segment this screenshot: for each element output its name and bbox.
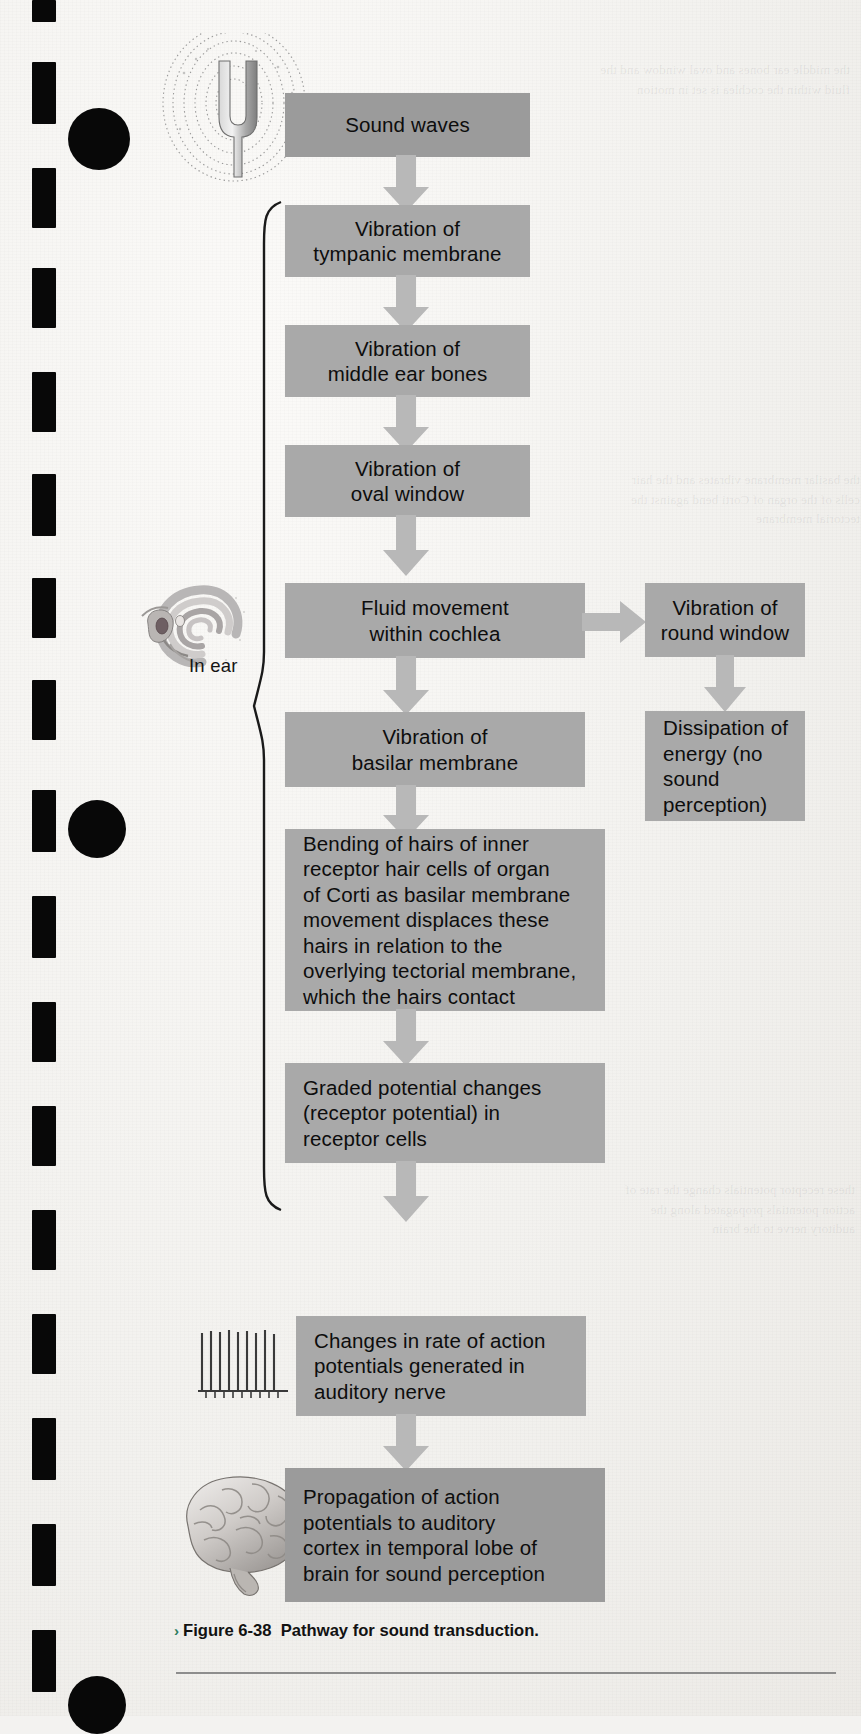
flow-node-action-potentials[interactable]: Changes in rate of action potentials gen… (296, 1316, 586, 1416)
flow-arrow-down (700, 655, 750, 713)
flow-node-label: Bending of hairs of inner receptor hair … (303, 831, 595, 1010)
figure-number: Figure 6-38 (183, 1621, 272, 1640)
flow-node-sound-waves[interactable]: Sound waves (285, 93, 530, 157)
flow-node-label: Vibration of basilar membrane (295, 724, 575, 775)
figure-caption: ›Figure 6-38 Pathway for sound transduct… (174, 1621, 539, 1641)
flow-node-label: Propagation of action potentials to audi… (303, 1484, 595, 1586)
in-ear-brace (251, 200, 287, 1212)
flow-node-label: Vibration of middle ear bones (295, 336, 520, 387)
flow-node-label: Dissipation of energy (no sound percepti… (663, 715, 795, 817)
caption-marker-icon: › (174, 1622, 179, 1639)
in-ear-label: In ear (189, 655, 238, 677)
flow-arrow-down (378, 1161, 434, 1223)
flow-node-graded-potential[interactable]: Graded potential changes (receptor poten… (285, 1063, 605, 1163)
flow-arrow-down (378, 515, 434, 577)
flow-node-round-window[interactable]: Vibration of round window (645, 583, 805, 657)
flow-node-label: Vibration of oval window (295, 456, 520, 507)
flow-arrow-down (378, 1414, 434, 1472)
flow-node-basilar-membrane[interactable]: Vibration of basilar membrane (285, 712, 585, 787)
action-potential-spike-train-illustration (196, 1325, 292, 1403)
flow-node-propagation[interactable]: Propagation of action potentials to audi… (285, 1468, 605, 1602)
flow-node-tympanic-membrane[interactable]: Vibration of tympanic membrane (285, 205, 530, 277)
flow-arrow-down (378, 1009, 434, 1067)
flow-node-label: Vibration of tympanic membrane (295, 216, 520, 267)
flow-node-label: Fluid movement within cochlea (295, 595, 575, 646)
figure-title: Pathway for sound transduction. (281, 1621, 539, 1640)
caption-rule (176, 1672, 836, 1674)
flow-node-label: Vibration of round window (655, 595, 795, 646)
flow-arrow-right (582, 598, 648, 646)
flow-node-label: Changes in rate of action potentials gen… (314, 1328, 576, 1405)
flow-node-bending-hairs[interactable]: Bending of hairs of inner receptor hair … (285, 829, 605, 1011)
flow-node-dissipation[interactable]: Dissipation of energy (no sound percepti… (645, 711, 805, 821)
flow-arrow-down (378, 656, 434, 716)
flow-node-middle-ear-bones[interactable]: Vibration of middle ear bones (285, 325, 530, 397)
flow-node-label: Graded potential changes (receptor poten… (303, 1075, 595, 1152)
flow-node-oval-window[interactable]: Vibration of oval window (285, 445, 530, 517)
flow-node-fluid-movement[interactable]: Fluid movement within cochlea (285, 583, 585, 658)
flow-node-label: Sound waves (295, 112, 520, 138)
